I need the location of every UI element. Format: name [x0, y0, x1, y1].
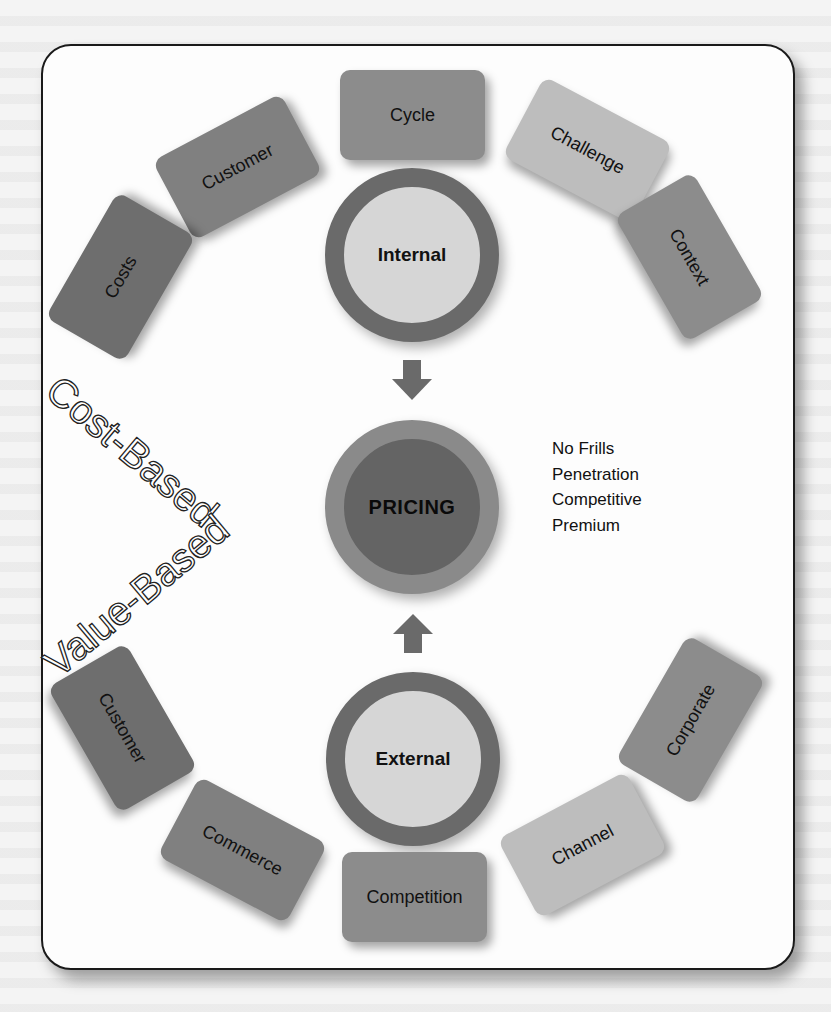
factor-label: Costs	[100, 252, 141, 302]
external-label: External	[376, 748, 451, 770]
factor-label: Competition	[366, 887, 462, 908]
pricing-label: PRICING	[369, 496, 456, 519]
external-ring: External	[326, 672, 500, 846]
up-arrow-icon	[393, 614, 433, 654]
pricing-circle: PRICING	[325, 420, 499, 594]
factor-card-cycle: Cycle	[340, 70, 485, 160]
factor-label: Corporate	[661, 680, 719, 760]
pricing-strategy-list: No Frills Penetration Competitive Premiu…	[552, 436, 642, 538]
factor-label: Customer	[198, 139, 277, 194]
strategy-penetration: Penetration	[552, 462, 642, 488]
factor-label: Commerce	[199, 820, 287, 880]
strategy-competitive: Competitive	[552, 487, 642, 513]
strategy-no-frills: No Frills	[552, 436, 642, 462]
factor-label: Customer	[94, 689, 151, 767]
factor-label: Cycle	[390, 105, 435, 126]
factor-label: Context	[665, 225, 714, 289]
factor-card-competition: Competition	[342, 852, 487, 942]
strategy-premium: Premium	[552, 513, 642, 539]
factor-label: Channel	[548, 820, 617, 870]
internal-ring: Internal	[325, 168, 499, 342]
down-arrow-icon	[392, 360, 432, 402]
internal-label: Internal	[378, 244, 447, 266]
factor-label: Challenge	[547, 122, 628, 179]
